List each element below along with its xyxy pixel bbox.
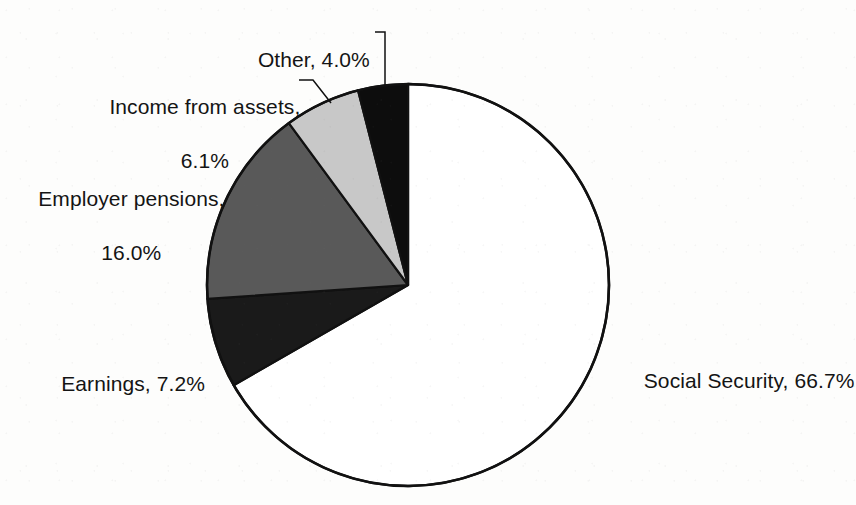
slice-label-employer-pensions-line1: Employer pensions, — [38, 187, 224, 210]
slice-label-employer-pensions-line2: 16.0% — [101, 241, 161, 264]
slice-label-income-from-assets-line1: Income from assets, — [109, 95, 300, 118]
slice-label-social-security: Social Security, 66.7% — [620, 340, 850, 421]
slice-label-earnings-text: Earnings, 7.2% — [61, 372, 205, 395]
slice-label-employer-pensions: Employer pensions, 16.0% — [13, 158, 226, 293]
pie-chart-figure: Other, 4.0% Income from assets, 6.1% Emp… — [0, 0, 856, 505]
slice-label-earnings: Earnings, 7.2% — [30, 343, 205, 424]
slice-label-social-security-text: Social Security, 66.7% — [644, 369, 855, 392]
